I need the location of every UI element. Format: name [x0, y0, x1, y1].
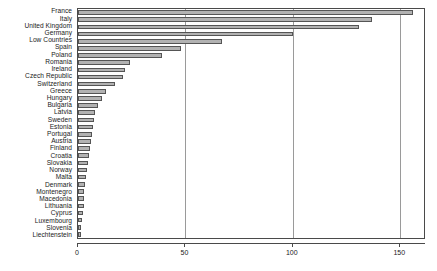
x-axis: 050100150 — [77, 243, 425, 244]
bar — [78, 139, 91, 144]
bar-row — [78, 81, 424, 88]
bar-row — [78, 188, 424, 195]
bars-container — [78, 9, 424, 238]
bar — [78, 82, 115, 87]
bar — [78, 168, 87, 173]
bar-row — [78, 116, 424, 123]
category-label: Liechtenstein — [0, 232, 75, 239]
bar-row — [78, 124, 424, 131]
x-tick-mark — [184, 243, 185, 247]
bar-row — [78, 195, 424, 202]
bar-row — [78, 52, 424, 59]
bar — [78, 53, 162, 58]
bar — [78, 75, 123, 80]
bar-row — [78, 16, 424, 23]
bar — [78, 60, 130, 65]
bar — [78, 103, 98, 108]
bar-row — [78, 23, 424, 30]
bar — [78, 132, 92, 137]
bar-row — [78, 224, 424, 231]
bar — [78, 225, 81, 230]
x-tick-mark — [77, 243, 78, 247]
bar — [78, 146, 90, 151]
bar-row — [78, 45, 424, 52]
bar-row — [78, 138, 424, 145]
plot-area — [77, 8, 425, 239]
bar-row — [78, 109, 424, 116]
bar-row — [78, 9, 424, 16]
bar-row — [78, 95, 424, 102]
bar — [78, 175, 86, 180]
bar-row — [78, 145, 424, 152]
bar-row — [78, 181, 424, 188]
bar — [78, 182, 85, 187]
bar-row — [78, 166, 424, 173]
bar — [78, 118, 94, 123]
bar — [78, 96, 102, 101]
bar — [78, 17, 372, 22]
x-tick-label: 50 — [181, 249, 189, 256]
bar — [78, 110, 95, 115]
x-tick-mark — [399, 243, 400, 247]
bar-row — [78, 131, 424, 138]
bar — [78, 204, 84, 209]
bar-row — [78, 174, 424, 181]
bar — [78, 32, 293, 37]
bar — [78, 189, 84, 194]
bar-row — [78, 73, 424, 80]
bar-row — [78, 217, 424, 224]
bar — [78, 218, 82, 223]
bar — [78, 10, 413, 15]
bar-row — [78, 88, 424, 95]
bar-row — [78, 38, 424, 45]
x-tick-label: 100 — [286, 249, 298, 256]
bar — [78, 89, 106, 94]
bar-row — [78, 209, 424, 216]
bar — [78, 161, 88, 166]
x-tick-mark — [292, 243, 293, 247]
bar — [78, 46, 181, 51]
bar-row — [78, 152, 424, 159]
bar-row — [78, 66, 424, 73]
bar — [78, 68, 125, 73]
bar-row — [78, 30, 424, 37]
bar-row — [78, 231, 424, 238]
bar-row — [78, 159, 424, 166]
bar — [78, 153, 89, 158]
x-tick-label: 0 — [75, 249, 79, 256]
x-tick-label: 150 — [393, 249, 405, 256]
bar — [78, 211, 83, 216]
bar — [78, 39, 222, 44]
bar — [78, 125, 93, 130]
category-axis-labels: FranceItalyUnited KingdomGermanyLow Coun… — [0, 8, 75, 239]
bar-row — [78, 202, 424, 209]
bar-chart: FranceItalyUnited KingdomGermanyLow Coun… — [0, 0, 437, 271]
bar-row — [78, 59, 424, 66]
bar — [78, 196, 84, 201]
bar-row — [78, 102, 424, 109]
bar — [78, 25, 359, 30]
bar — [78, 232, 81, 237]
